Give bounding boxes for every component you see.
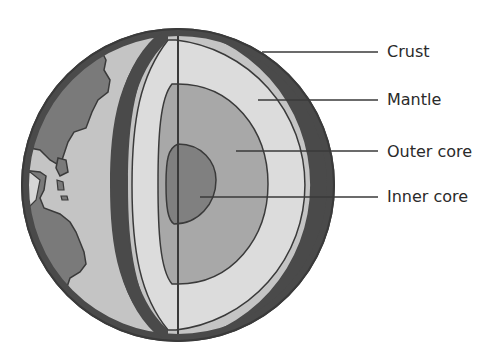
label-inner-core: Inner core xyxy=(387,189,468,205)
label-crust: Crust xyxy=(387,44,430,60)
continent-island-3 xyxy=(61,196,68,200)
label-mantle: Mantle xyxy=(387,92,441,108)
continent-island-2 xyxy=(57,180,64,190)
label-outer-core: Outer core xyxy=(387,144,472,160)
